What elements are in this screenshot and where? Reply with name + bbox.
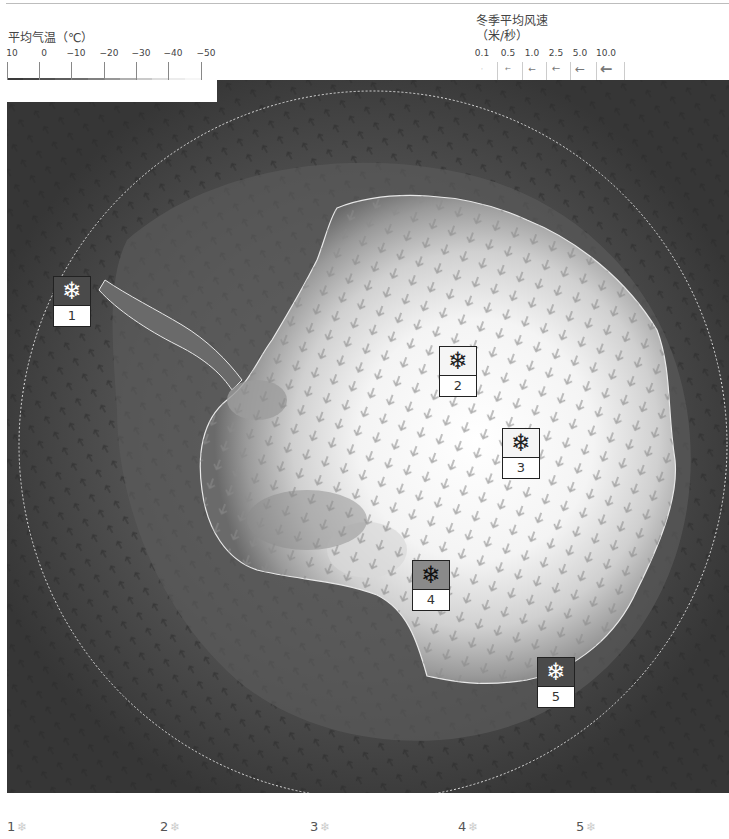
station-number: 2 (440, 375, 476, 396)
temperature-tick: −40 (164, 48, 183, 58)
temperature-tick: −50 (197, 48, 216, 58)
wind-tick: 10.0 ← (594, 48, 618, 76)
map-canvas (7, 80, 729, 793)
wind-arrow-icon: ← (594, 62, 618, 76)
snowflake-icon: ❄ (17, 820, 27, 834)
temperature-tick: 10 (6, 48, 17, 58)
temperature-tick: −30 (132, 48, 151, 58)
station-index-item-4[interactable]: 4❄ (458, 819, 478, 834)
station-number: 3 (503, 457, 539, 478)
wind-legend-title-line1: 冬季平均风速 (476, 14, 548, 29)
snowflake-icon: ❄ (54, 277, 90, 305)
temperature-tick: −10 (67, 48, 86, 58)
snowflake-icon: ❄ (440, 347, 476, 375)
station-index-item-5[interactable]: 5❄ (576, 819, 596, 834)
snowflake-icon: ❄ (586, 820, 596, 834)
legend-backdrop (7, 80, 217, 102)
snowflake-icon: ❄ (468, 820, 478, 834)
station-index-item-2[interactable]: 2❄ (160, 819, 180, 834)
temperature-legend-ticks: 10 0 −10 −20 −30 −40 −50 (6, 48, 216, 62)
wind-tick: 5.0 ← (568, 48, 592, 76)
station-marker-4[interactable]: ❄ 4 (412, 560, 450, 611)
wind-arrow-icon: ← (520, 62, 544, 76)
antarctica-temperature-wind-map: ❄ 1 ❄ 2 ❄ 3 ❄ 4 ❄ 5 (7, 80, 729, 793)
station-index: 1❄ 2❄ 3❄ 4❄ 5❄ (0, 815, 729, 839)
station-marker-5[interactable]: ❄ 5 (537, 657, 575, 708)
temperature-tick: −20 (100, 48, 119, 58)
wind-legend-title: 冬季平均风速 （米/秒） (476, 14, 548, 44)
snowflake-icon: ❄ (320, 820, 330, 834)
snowflake-icon: ❄ (538, 658, 574, 686)
wind-arrow-icon: · (470, 62, 494, 76)
wind-tick: 0.5 ← (496, 48, 520, 76)
snowflake-icon: ❄ (413, 561, 449, 589)
wind-tick: 1.0 ← (520, 48, 544, 76)
station-number: 5 (538, 686, 574, 707)
station-marker-1[interactable]: ❄ 1 (53, 276, 91, 327)
snowflake-icon: ❄ (170, 820, 180, 834)
station-number: 1 (54, 305, 90, 326)
wind-tick: 0.1 · (470, 48, 494, 76)
wind-arrow-icon: ← (496, 62, 520, 76)
divider (624, 62, 625, 80)
wind-tick: 2.5 ← (544, 48, 568, 76)
wind-arrow-icon: ← (544, 62, 568, 76)
temperature-tick: 0 (41, 48, 47, 58)
snowflake-icon: ❄ (503, 429, 539, 457)
station-index-item-1[interactable]: 1❄ (7, 819, 27, 834)
station-marker-3[interactable]: ❄ 3 (502, 428, 540, 479)
temperature-legend-title: 平均气温（℃） (8, 28, 93, 45)
wind-arrow-icon: ← (568, 62, 592, 76)
station-marker-2[interactable]: ❄ 2 (439, 346, 477, 397)
station-index-item-3[interactable]: 3❄ (310, 819, 330, 834)
station-number: 4 (413, 589, 449, 610)
top-divider (6, 3, 729, 4)
wind-legend-title-unit: （米/秒） (476, 29, 548, 44)
